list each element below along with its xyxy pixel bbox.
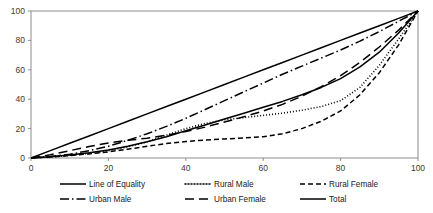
legend-label-urban-female: Urban Female xyxy=(214,195,266,204)
lorenz-curve-figure: 020406080100 020406080100 Line of Equali… xyxy=(0,0,433,213)
x-axis-ticks: 020406080100 xyxy=(29,158,426,173)
x-tick-label: 100 xyxy=(411,163,425,173)
y-tick-label: 80 xyxy=(16,35,26,45)
y-tick-label: 100 xyxy=(11,6,25,16)
y-tick-label: 40 xyxy=(16,94,26,104)
y-tick-label: 0 xyxy=(20,153,25,163)
y-tick-label: 60 xyxy=(16,65,26,75)
y-axis-ticks: 020406080100 xyxy=(11,6,31,163)
x-tick-label: 80 xyxy=(336,163,346,173)
chart-canvas: 020406080100 020406080100 Line of Equali… xyxy=(0,0,433,213)
x-tick-label: 40 xyxy=(181,163,191,173)
legend-label-line-of-equality: Line of Equality xyxy=(89,180,146,189)
x-tick-label: 0 xyxy=(29,163,34,173)
chart-legend: Line of EqualityRural MaleRural FemaleUr… xyxy=(60,180,379,204)
legend-label-rural-male: Rural Male xyxy=(214,180,254,189)
legend-label-urban-male: Urban Male xyxy=(89,195,132,204)
data-series-group xyxy=(31,11,418,158)
legend-label-total: Total xyxy=(329,195,346,204)
y-tick-label: 20 xyxy=(16,124,26,134)
x-tick-label: 20 xyxy=(104,163,114,173)
legend-label-rural-female: Rural Female xyxy=(329,180,379,189)
series-line-line-of-equality xyxy=(31,11,418,158)
x-tick-label: 60 xyxy=(258,163,268,173)
